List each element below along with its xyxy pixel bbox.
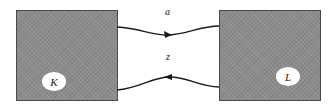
arrowhead-right-icon <box>164 31 172 38</box>
arrowhead-left-icon <box>164 74 172 80</box>
flow-label-z: z <box>166 51 170 62</box>
flow-label-a: a <box>165 6 170 17</box>
flow-arrow-z <box>117 77 219 90</box>
